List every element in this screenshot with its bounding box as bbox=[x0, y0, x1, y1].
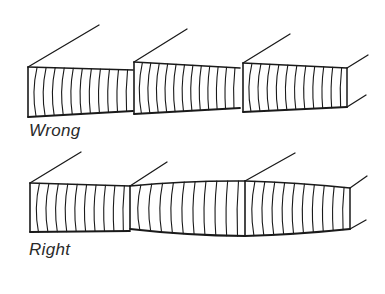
edge-line bbox=[30, 152, 81, 183]
turned-block bbox=[243, 34, 347, 112]
turned-block bbox=[28, 25, 133, 117]
edge-line bbox=[130, 162, 167, 186]
turned-block bbox=[30, 152, 130, 232]
end-edge-line bbox=[347, 95, 366, 107]
edge-line bbox=[28, 25, 99, 67]
edge-line bbox=[245, 153, 295, 181]
right-panel-drawing bbox=[30, 152, 367, 236]
wrong-panel-drawing bbox=[28, 25, 368, 117]
end-edge-line bbox=[350, 176, 367, 188]
turned-block bbox=[130, 162, 245, 236]
turned-block bbox=[134, 29, 240, 114]
edge-line bbox=[134, 29, 187, 62]
turned-block bbox=[245, 153, 350, 236]
right-label: Right bbox=[29, 240, 70, 260]
wrong-label: Wrong bbox=[29, 121, 81, 141]
end-edge-line bbox=[350, 220, 366, 229]
edge-line bbox=[243, 34, 290, 63]
end-edge-line bbox=[347, 55, 368, 68]
